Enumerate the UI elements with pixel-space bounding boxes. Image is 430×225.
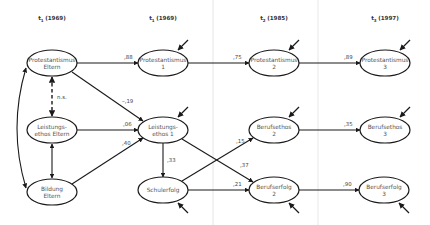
path-coefficient: ,21 — [233, 181, 242, 187]
node-label-line2: 3 — [383, 64, 387, 70]
node-label-line1: Berufsethos — [257, 124, 292, 130]
node-ellipse — [360, 50, 410, 76]
time-header-t3: t3(1997) — [371, 15, 399, 23]
path-coefficient: ,90 — [343, 181, 352, 187]
correlation-prot_eltern-bildung_eltern — [17, 68, 26, 188]
error-term-arrow-schulerfolg — [178, 203, 188, 213]
node-label-line2: ethos 1 — [152, 131, 174, 137]
node-leist_eltern: Leistungs-ethos Eltern — [27, 117, 77, 143]
node-ellipse — [27, 179, 77, 205]
path-leist1-to-berufserfolg2 — [182, 139, 253, 182]
node-label-line1: Protestantismus — [362, 57, 409, 63]
node-prot2: Protestantismus2 — [249, 50, 299, 76]
node-label-line2: 1 — [161, 64, 165, 70]
node-ellipse — [138, 50, 188, 76]
node-bildung_eltern: BildungEltern — [27, 179, 77, 205]
error-term-arrow-berufserfolg3 — [399, 203, 409, 213]
node-label-line2: 3 — [383, 131, 387, 137]
node-berufsethos3: Berufsethos3 — [360, 117, 410, 143]
path-coefficient: ,40 — [122, 140, 131, 146]
path-coefficient: –,19 — [122, 98, 134, 104]
node-label-line2: 3 — [382, 191, 386, 197]
node-label-line2: Eltern — [43, 64, 60, 70]
error-term-arrow-prot3 — [400, 40, 410, 50]
error-term-arrow-prot2 — [289, 40, 299, 50]
node-ellipse — [359, 177, 409, 203]
node-label-line1: Berufsethos — [368, 124, 403, 130]
path-coefficient: ,75 — [233, 54, 242, 60]
node-ellipse — [360, 117, 410, 143]
path-bildung_eltern-to-leist1 — [72, 138, 143, 184]
node-label-line1: Leistungs- — [37, 124, 67, 131]
node-label-line1: Protestantismus — [29, 57, 76, 63]
path-coefficient: ,88 — [124, 54, 133, 60]
time-header-t1b: t1(1969) — [149, 15, 177, 23]
path-prot_eltern-to-leist1 — [72, 72, 143, 121]
correlation-label: n.s. — [57, 94, 67, 100]
node-label-line1: Leistungs- — [148, 124, 178, 131]
node-ellipse — [27, 50, 77, 76]
node-berufserfolg2: Berufserfolg2 — [249, 177, 299, 203]
node-label-line2: Eltern — [43, 193, 60, 199]
error-term-arrow-berufserfolg2 — [289, 203, 299, 213]
path-coefficient: ,35 — [344, 121, 353, 127]
node-prot3: Protestantismus3 — [360, 50, 410, 76]
path-arrows — [72, 63, 360, 190]
node-label-line1: Protestantismus — [140, 57, 187, 63]
time-header-t2: t2(1985) — [260, 15, 288, 23]
path-coefficient: ,89 — [344, 54, 353, 60]
node-berufsethos2: Berufsethos2 — [249, 117, 299, 143]
latent-variables: ProtestantismusElternLeistungs-ethos Elt… — [27, 50, 410, 205]
node-label-line2: 2 — [272, 64, 276, 70]
time-headers: t1(1969)t1(1969)t2(1985)t3(1997) — [38, 15, 399, 23]
node-ellipse — [249, 117, 299, 143]
node-ellipse — [138, 117, 188, 143]
node-label-line1: Protestantismus — [251, 57, 298, 63]
path-coefficient: ,06 — [123, 121, 132, 127]
path-schulerfolg-to-berufsethos2 — [182, 138, 253, 181]
node-label-line1: Berufserfolg — [366, 184, 402, 191]
node-ellipse — [249, 50, 299, 76]
node-label-line2: 2 — [272, 131, 276, 137]
node-schulerfolg: Schulerfolg — [138, 177, 188, 203]
node-ellipse — [249, 177, 299, 203]
path-coefficient: ,37 — [240, 162, 249, 168]
path-diagram: t1(1969)t1(1969)t2(1985)t3(1997) n.s. Pr… — [0, 0, 430, 225]
node-label-line2: 2 — [272, 191, 276, 197]
node-label-line2: ethos Eltern — [35, 131, 70, 137]
node-leist1: Leistungs-ethos 1 — [138, 117, 188, 143]
node-berufserfolg3: Berufserfolg3 — [359, 177, 409, 203]
path-coefficient: ,33 — [167, 157, 176, 163]
error-term-arrow-berufsethos2 — [289, 107, 299, 117]
node-label-line1: Bildung — [41, 186, 63, 193]
node-ellipse — [27, 117, 77, 143]
node-prot1: Protestantismus1 — [138, 50, 188, 76]
node-label: Schulerfolg — [147, 187, 180, 194]
path-coefficient: ,15 — [236, 138, 245, 144]
error-term-arrow-leist1 — [178, 107, 188, 117]
time-header-t1a: t1(1969) — [38, 15, 66, 23]
node-prot_eltern: ProtestantismusEltern — [27, 50, 77, 76]
error-term-arrow-prot1 — [178, 40, 188, 50]
node-label-line1: Berufserfolg — [256, 184, 292, 191]
error-term-arrow-berufsethos3 — [400, 107, 410, 117]
